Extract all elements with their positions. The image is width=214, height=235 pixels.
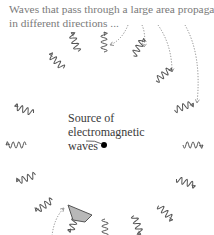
wave-arrow [34,197,54,214]
wave-arrow [175,176,196,189]
wave-arrow [14,103,35,116]
source-label-line-2: electromagnetic [68,125,145,139]
wave-arrow [156,203,175,222]
wave-arrow [173,100,194,113]
source-label-line-1: Source of [68,111,114,125]
wave-arrow [183,142,203,148]
wave-arrow [102,219,108,235]
caption-line-1: Waves that pass through a large area pro… [9,3,214,16]
wave-arrow [131,37,147,58]
wave-arrow [131,214,144,235]
dotted-arrow [158,25,172,72]
diagram-canvas: Waves that pass through a large area pro… [0,0,214,235]
wave-arrow [16,172,37,185]
wave-arrow [101,32,107,52]
dotted-arrow [52,208,64,235]
caption-line-2: in different directions ... [9,17,119,30]
source-label-line-3: waves [68,139,98,153]
dotted-arrow [185,25,198,103]
wave-arrow [68,32,81,53]
source-dot [101,142,107,148]
wave-arrow [47,52,66,71]
dotted-arrow [142,25,145,47]
wave-arrow [6,142,26,148]
wave-arrow [154,65,173,83]
